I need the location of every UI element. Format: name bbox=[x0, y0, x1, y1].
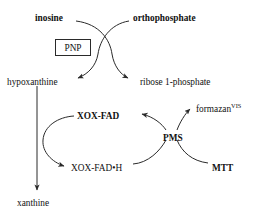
enzyme-label: PNP bbox=[56, 44, 90, 53]
node-inosine: inosine bbox=[35, 14, 63, 23]
edge-mtt-to-pms bbox=[177, 140, 208, 163]
node-xanthine-label: xanthine bbox=[17, 198, 49, 208]
node-ribose-1-phosphate: ribose 1-phosphate bbox=[140, 78, 211, 87]
node-hypoxanthine-label: hypoxanthine bbox=[7, 77, 58, 87]
node-orthophosphate: orthophosphate bbox=[133, 14, 196, 23]
edge-pms-to-xox-fad bbox=[142, 114, 166, 130]
node-formazan-label: formazan bbox=[196, 104, 231, 114]
node-ribose-1-phosphate-label: ribose 1-phosphate bbox=[140, 77, 211, 87]
node-inosine-label: inosine bbox=[35, 13, 63, 23]
node-orthophosphate-label: orthophosphate bbox=[133, 13, 196, 23]
node-formazan-superscript: VIS bbox=[231, 102, 241, 109]
edge-pms-to-formazan bbox=[177, 109, 190, 130]
node-xox-fad-h: XOX-FAD•H bbox=[71, 164, 122, 173]
edge-xox-fad-to-xox-fad-h bbox=[43, 116, 74, 166]
node-xanthine: xanthine bbox=[17, 199, 49, 208]
node-hypoxanthine: hypoxanthine bbox=[7, 78, 58, 87]
edge-xox-fad-h-to-pms bbox=[133, 140, 166, 164]
node-pms-label: PMS bbox=[163, 133, 183, 143]
node-mtt-label: MTT bbox=[212, 163, 233, 173]
pathway-diagram: PNP inosine orthophosphate hypoxanthine … bbox=[0, 0, 255, 217]
node-xox-fad-label: XOX-FAD bbox=[77, 111, 119, 121]
enzyme-box-pnp: PNP bbox=[55, 39, 91, 56]
node-formazan: formazanVIS bbox=[196, 105, 241, 114]
node-xox-fad: XOX-FAD bbox=[77, 112, 119, 121]
node-xox-fad-h-label: XOX-FAD•H bbox=[71, 163, 122, 173]
node-mtt: MTT bbox=[212, 164, 233, 173]
node-pms: PMS bbox=[163, 134, 183, 143]
